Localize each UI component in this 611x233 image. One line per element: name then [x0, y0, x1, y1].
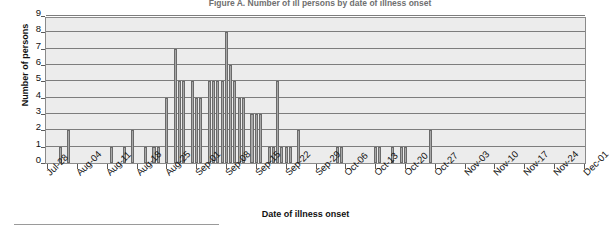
plot-area: [45, 17, 586, 164]
y-tick-label: 0: [15, 156, 41, 164]
x-axis-title: Date of illness onset: [0, 209, 611, 219]
epi-curve-figure: Figure A. Number of ill persons by date …: [0, 0, 611, 233]
bar: [255, 114, 258, 163]
bar: [174, 49, 177, 163]
bar: [131, 130, 134, 163]
y-tick-label: 1: [15, 140, 41, 148]
bar: [195, 98, 198, 163]
y-tick-label: 2: [15, 123, 41, 131]
bar-series: [46, 18, 585, 163]
bar: [429, 130, 432, 163]
chart-title: Figure A. Number of ill persons by date …: [150, 0, 490, 8]
bar: [259, 114, 262, 163]
y-tick-label: 8: [15, 25, 41, 33]
bar: [233, 81, 236, 163]
bar: [285, 147, 288, 163]
bar: [225, 32, 228, 163]
bar: [165, 98, 168, 163]
y-tick-label: 9: [15, 9, 41, 17]
bar: [374, 147, 377, 163]
y-tick-label: 7: [15, 42, 41, 50]
y-tick-label: 3: [15, 107, 41, 115]
footer-rule: [14, 224, 219, 225]
bar: [229, 65, 232, 163]
y-tick-label: 5: [15, 74, 41, 82]
bar: [404, 147, 407, 163]
y-tick-label: 6: [15, 58, 41, 66]
bar: [199, 98, 202, 163]
y-axis: 0123456789: [0, 17, 41, 164]
bar: [191, 81, 194, 163]
gridline: [46, 15, 585, 16]
x-axis: Jul-28Aug-04Aug-11Aug-18Aug-25Sep-01Sep-…: [0, 164, 611, 210]
bar: [400, 147, 403, 163]
y-tick-label: 4: [15, 91, 41, 99]
bar: [221, 81, 224, 163]
